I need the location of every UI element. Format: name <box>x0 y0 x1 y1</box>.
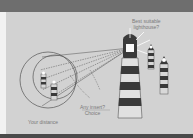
best-lighthouse-label: Best suitable lighthouse? <box>132 18 161 30</box>
distant-lighthouse-1 <box>148 44 154 69</box>
insert-label: Any insert? Choice <box>80 104 105 116</box>
range-circles <box>20 52 77 108</box>
main-lighthouse <box>118 28 150 118</box>
small-lighthouse-2 <box>51 80 57 100</box>
best-lighthouse-line2: lighthouse? <box>132 24 161 30</box>
insert-line2: Choice <box>80 110 105 116</box>
lighthouse-diagram <box>0 0 193 138</box>
distance-label: Your distance <box>28 119 58 125</box>
small-lighthouse-1 <box>41 72 46 89</box>
distant-lighthouse-2 <box>160 56 168 94</box>
